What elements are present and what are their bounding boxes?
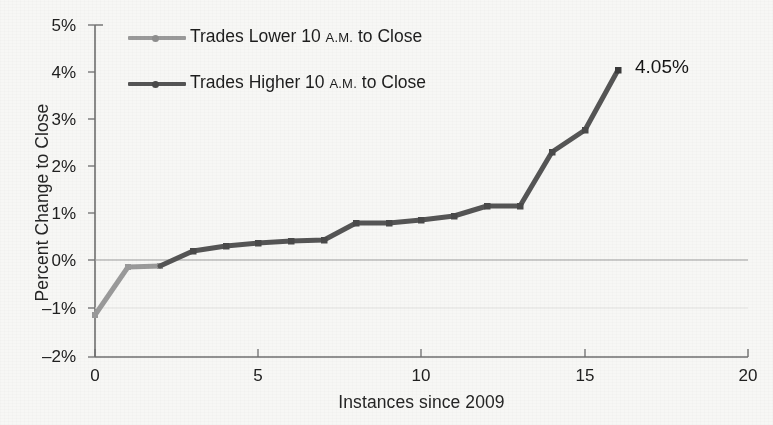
data-point-marker [517, 203, 524, 210]
legend-marker-trades-lower [152, 35, 159, 42]
x-axis-title: Instances since 2009 [95, 392, 748, 413]
legend-label-trades-lower: Trades Lower 10 A.M. to Close [190, 26, 422, 47]
legend-text-lower-ampm: A.M. [326, 30, 354, 45]
data-point-marker-final [615, 67, 622, 74]
data-point-marker [451, 213, 458, 220]
data-point-marker [190, 248, 197, 255]
y-tick-label-neg2: –2% [14, 347, 76, 367]
y-tick-label-5: 5% [14, 16, 76, 36]
y-tick-marks [88, 25, 95, 357]
x-tick-label-10: 10 [397, 366, 445, 386]
data-point-marker [321, 237, 328, 244]
x-tick-label-15: 15 [561, 366, 609, 386]
chart-screenshot: 5% 4% 3% 2% 1% 0% –1% –2% 0 5 10 15 20 P… [0, 0, 773, 425]
legend-text-higher-pre: Trades Higher 10 [190, 72, 329, 92]
data-point-marker [582, 127, 589, 134]
series-trades-higher [160, 67, 622, 266]
x-tick-label-5: 5 [234, 366, 282, 386]
data-point-marker [223, 243, 230, 250]
legend-text-higher-post: to Close [357, 72, 426, 92]
data-point-marker [549, 149, 556, 156]
data-point-marker [353, 220, 360, 227]
x-tick-marks [95, 349, 585, 357]
series-trades-lower [92, 263, 163, 318]
y-axis-title: Percent Change to Close [32, 73, 53, 333]
data-point-marker [255, 240, 262, 247]
legend-text-higher-ampm: A.M. [329, 76, 357, 91]
series-higher-line [160, 70, 618, 266]
legend-marker-trades-higher [152, 81, 159, 88]
data-point-marker [386, 220, 393, 227]
data-point-marker [418, 217, 425, 224]
legend-text-lower-post: to Close [353, 26, 422, 46]
data-point-marker [288, 238, 295, 245]
x-tick-label-0: 0 [71, 366, 119, 386]
data-point-marker [484, 203, 491, 210]
data-point-marker [125, 264, 131, 270]
data-point-marker [92, 312, 98, 318]
legend-text-lower-pre: Trades Lower 10 [190, 26, 326, 46]
legend-label-trades-higher: Trades Higher 10 A.M. to Close [190, 72, 426, 93]
x-tick-label-20: 20 [724, 366, 772, 386]
final-value-annotation: 4.05% [635, 56, 689, 78]
